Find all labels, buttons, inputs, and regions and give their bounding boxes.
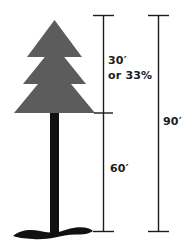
tree-graphic: [13, 20, 95, 239]
diagram-canvas: [0, 0, 190, 251]
trunk-height-label: 60′: [110, 162, 129, 175]
canopy-height-value: 30′: [108, 54, 127, 67]
dimension-line-segmented: [93, 15, 114, 232]
tree-trunk-shape: [50, 107, 59, 233]
total-height-value: 90′: [163, 115, 182, 128]
total-height-label: 90′: [163, 115, 182, 128]
trunk-height-value: 60′: [110, 162, 129, 175]
canopy-height-label: 30′ or 33%: [108, 54, 152, 82]
canopy-height-percent: or 33%: [108, 69, 152, 82]
canopy-tier-top: [27, 20, 82, 57]
tree-proportion-diagram: 30′ or 33% 60′ 90′: [0, 0, 190, 251]
